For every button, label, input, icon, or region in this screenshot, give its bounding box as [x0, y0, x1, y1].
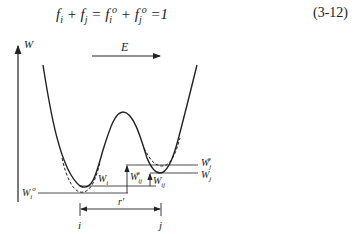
label-W-ij-zero: Wijo [130, 169, 142, 185]
distance-label: r' [118, 196, 125, 207]
site-j-label: j [157, 219, 162, 231]
site-i-label: i [78, 219, 81, 231]
double-well-diagram: W E Wio Wi Wijo Wij Wjo Wj r' i j [0, 0, 354, 234]
w-axis-label: W [24, 38, 34, 50]
label-W-ij: Wij [153, 175, 165, 189]
label-W-j: Wj [201, 169, 211, 183]
label-W-i-zero: Wio [22, 185, 36, 201]
label-W-i: Wi [98, 173, 108, 187]
potential-curve-solid [43, 65, 197, 187]
field-label: E [120, 40, 129, 54]
